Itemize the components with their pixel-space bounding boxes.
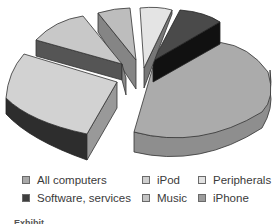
legend-swatch: [198, 194, 206, 202]
legend-label: Peripherals: [213, 174, 271, 186]
legend-label: iPod: [157, 174, 180, 186]
pie-chart: [0, 0, 279, 170]
legend-swatch: [22, 194, 30, 202]
legend-item-software-services: Software, services: [22, 192, 131, 204]
legend-label: All computers: [37, 174, 107, 186]
legend-label: Music: [157, 192, 187, 204]
legend-item-ipod: iPod: [142, 174, 180, 186]
caption-text: Exhibit: [14, 219, 74, 224]
legend-label: Software, services: [37, 192, 131, 204]
legend-item-peripherals: Peripherals: [198, 174, 271, 186]
legend-item-iphone: iPhone: [198, 192, 249, 204]
legend-item-all-computers: All computers: [22, 174, 107, 186]
legend-item-music: Music: [142, 192, 187, 204]
legend: All computers iPod Peripherals Software,…: [0, 172, 279, 208]
legend-swatch: [142, 176, 150, 184]
legend-label: iPhone: [213, 192, 249, 204]
chart-caption: Exhibit: [14, 216, 74, 224]
legend-swatch: [142, 194, 150, 202]
legend-swatch: [22, 176, 30, 184]
legend-swatch: [198, 176, 206, 184]
